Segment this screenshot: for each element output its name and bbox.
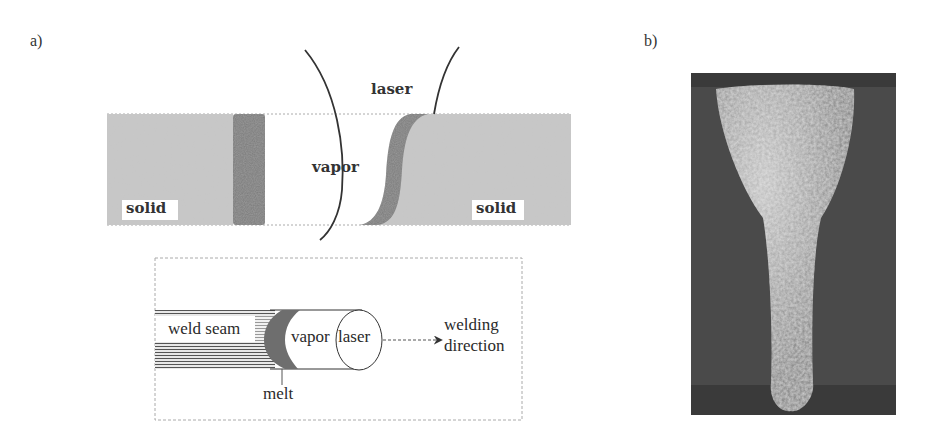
vapor-cross-section-label: vapor (312, 158, 359, 176)
welding-direction-label-line2: direction (444, 336, 504, 356)
weld-seam-label: weld seam (166, 318, 242, 340)
weld-seam-upper-band (155, 310, 275, 316)
weld-micrograph-shape (691, 73, 896, 415)
melt-left-band (233, 114, 265, 225)
laser-beam-right-curve (434, 47, 459, 114)
solid-left-label: solid (126, 199, 166, 217)
laser-top-view-label: laser (338, 327, 370, 347)
panel-a-diagram (0, 0, 620, 440)
melt-label: melt (263, 384, 293, 404)
vapor-top-view-label: vapor (291, 327, 330, 347)
laser-beam-left-curve (305, 50, 343, 240)
weld-micrograph-photo (691, 73, 896, 415)
welding-direction-label-line1: welding (444, 315, 499, 335)
solid-right-label: solid (476, 199, 516, 217)
weld-seam-lower-band (155, 342, 275, 369)
panel-b-label: b) (644, 32, 657, 50)
laser-cross-section-label: laser (371, 80, 412, 98)
